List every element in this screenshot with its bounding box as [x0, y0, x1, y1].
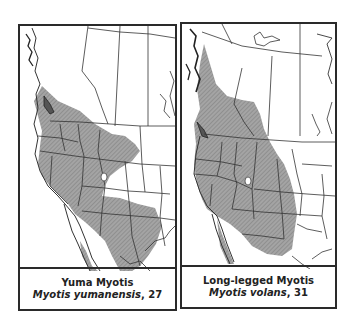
- common-name: Long-legged Myotis: [182, 275, 335, 287]
- scientific-name: Myotis yumanensis: [33, 289, 141, 300]
- range-area: [34, 86, 162, 271]
- range-area: [194, 44, 297, 256]
- range-map-panel-yuma-myotis: Yuma Myotis Myotis yumanensis, 27: [18, 24, 177, 311]
- scientific-name: Myotis volans: [209, 287, 287, 298]
- plate-number: 31: [294, 287, 308, 298]
- range-map-panel-long-legged-myotis: Long-legged Myotis Myotis volans, 31: [180, 22, 337, 309]
- caption-long-legged-myotis: Long-legged Myotis Myotis volans, 31: [182, 265, 335, 307]
- plate-number: 27: [148, 289, 162, 300]
- common-name: Yuma Myotis: [20, 277, 175, 289]
- range-map-long-legged-myotis: [182, 24, 335, 269]
- scientific-name-line: Myotis volans, 31: [182, 287, 335, 299]
- range-map-yuma-myotis: [20, 26, 175, 271]
- caption-yuma-myotis: Yuma Myotis Myotis yumanensis, 27: [20, 267, 175, 309]
- scientific-name-line: Myotis yumanensis, 27: [20, 289, 175, 301]
